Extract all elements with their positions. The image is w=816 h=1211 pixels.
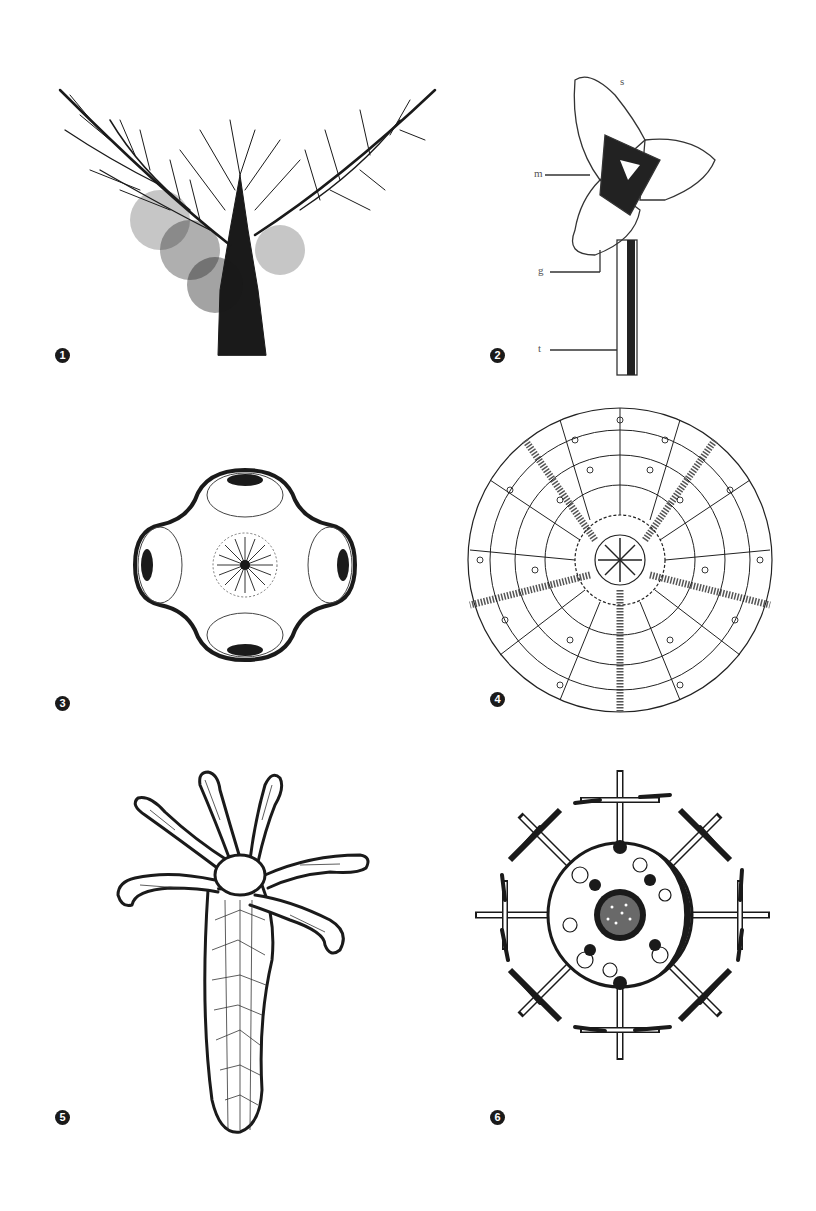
- four-lobed-body-illustration: [40, 460, 360, 710]
- label-s: s: [620, 75, 624, 87]
- panel-marker-6: 6: [490, 1110, 505, 1125]
- label-m: m: [534, 167, 543, 179]
- plated-test-illustration: [460, 400, 780, 720]
- branching-organism-illustration: [40, 60, 460, 380]
- panel-5-hydra-polyp: 5: [40, 760, 380, 1140]
- hydra-polyp-illustration: [40, 760, 380, 1140]
- stalked-head-illustration: [520, 60, 750, 390]
- label-g: g: [538, 264, 544, 276]
- panel-marker-3: 3: [55, 696, 70, 711]
- panel-marker-2: 2: [490, 348, 505, 363]
- panel-4-plated-test: 4: [460, 400, 780, 720]
- panel-6-radiolarian: 6: [460, 760, 780, 1120]
- panel-2-stalked-head: s m g t 2: [520, 60, 750, 390]
- panel-marker-5: 5: [55, 1110, 70, 1125]
- panel-1-branching-organism: 1: [40, 60, 460, 380]
- radiolarian-illustration: [460, 760, 780, 1080]
- panel-marker-4: 4: [490, 692, 505, 707]
- panel-marker-1: 1: [55, 348, 70, 363]
- label-t: t: [538, 342, 541, 354]
- panel-3-four-lobed-body: 3: [40, 460, 360, 710]
